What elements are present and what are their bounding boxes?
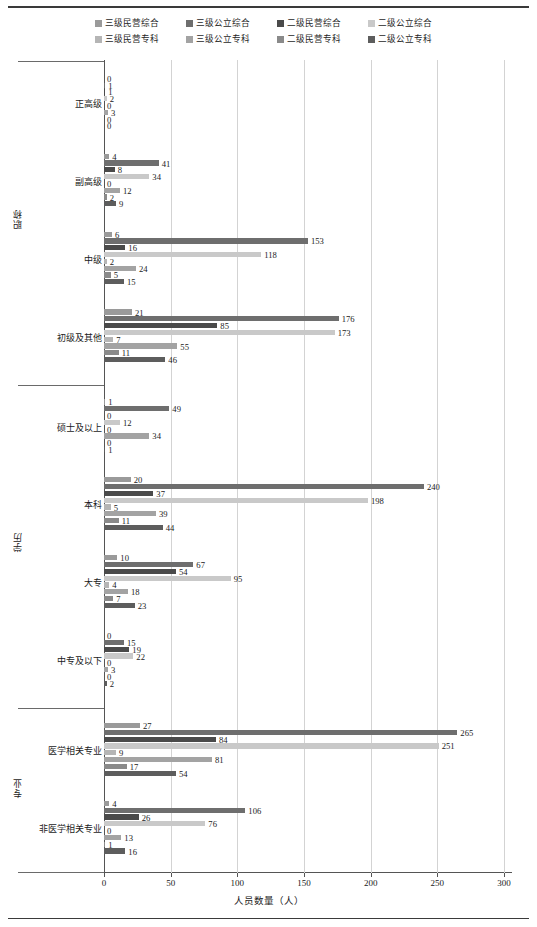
bar[interactable] [104,723,140,728]
bar[interactable] [104,259,107,264]
bar[interactable] [104,232,112,237]
bar[interactable] [104,154,109,159]
x-axis-tick-label: 150 [297,878,311,888]
bar[interactable] [104,640,124,645]
bar[interactable] [104,343,177,348]
group-separator [18,61,104,62]
bar[interactable] [104,757,212,762]
bar[interactable] [104,603,135,608]
bar[interactable] [104,194,107,199]
bar[interactable] [104,484,424,489]
legend-item-label: 三级民营专科 [105,32,159,46]
bar[interactable] [104,160,159,165]
bar[interactable] [104,447,105,452]
bar[interactable] [104,330,335,335]
x-axis-tick-label: 0 [102,878,107,888]
legend-swatch-icon [186,36,193,43]
x-axis-tick [171,873,172,877]
legend-swatch-icon [368,20,375,27]
bar[interactable] [104,555,117,560]
bar-value-label: 15 [127,278,136,287]
bar[interactable] [104,491,153,496]
x-axis-tick-label: 50 [166,878,175,888]
bar[interactable] [104,511,156,516]
bar[interactable] [104,266,136,271]
x-axis-tick-label: 200 [364,878,378,888]
bar-value-label: 198 [371,496,384,505]
x-axis-title: 人员数量（人） [0,893,537,907]
bar[interactable] [104,399,105,404]
bar[interactable] [104,167,115,172]
bar-value-label: 240 [427,483,440,492]
bar[interactable] [104,518,119,523]
legend-item[interactable]: 二级公立综合 [368,16,455,30]
bar[interactable] [104,750,116,755]
bar[interactable] [104,801,109,806]
bar[interactable] [104,771,176,776]
bar[interactable] [104,737,216,742]
bar[interactable] [104,681,107,686]
bar[interactable] [104,498,368,503]
category-label: 副高级 [30,174,102,187]
x-axis-tick [237,873,238,877]
bar-value-label: 12 [123,419,132,428]
bar[interactable] [104,279,124,284]
bar[interactable] [104,357,165,362]
bar[interactable] [104,569,176,574]
bar[interactable] [104,848,125,853]
legend-item[interactable]: 二级民营专科 [277,32,364,46]
bar-value-label: 41 [162,159,171,168]
category-label: 正高级 [30,96,102,109]
bar[interactable] [104,477,131,482]
bar-value-label: 54 [179,769,188,778]
bar[interactable] [104,808,245,813]
bar[interactable] [104,576,231,581]
bar[interactable] [104,245,125,250]
bar[interactable] [104,272,111,277]
bar[interactable] [104,323,217,328]
bar[interactable] [104,252,261,257]
bar[interactable] [104,525,163,530]
legend-item[interactable]: 三级民营专科 [95,32,182,46]
bottom-divider [8,918,529,919]
bar[interactable] [104,764,127,769]
bar[interactable] [104,350,119,355]
bar[interactable] [104,842,105,847]
category-label: 大专 [30,576,102,589]
gridline [171,60,172,873]
gridline [437,60,438,873]
legend-item[interactable]: 三级民营综合 [95,16,182,30]
legend-item[interactable]: 三级公立综合 [186,16,273,30]
bar-value-label: 251 [442,742,455,751]
x-axis-tick [304,873,305,877]
bar[interactable] [104,730,457,735]
legend-item-label: 三级民营综合 [105,16,159,30]
bar[interactable] [104,89,105,94]
bar[interactable] [104,835,121,840]
bar[interactable] [104,647,129,652]
bar-value-label: 118 [264,251,277,260]
bar[interactable] [104,582,109,587]
axis-group-label: 学历 [10,532,23,552]
legend-item[interactable]: 二级公立专科 [368,32,455,46]
bar-value-label: 265 [460,729,473,738]
legend-item[interactable]: 三级公立专科 [186,32,273,46]
bar[interactable] [104,596,113,601]
x-axis-tick [371,873,372,877]
category-label: 医学相关专业 [30,744,102,757]
bar[interactable] [104,406,169,411]
bar[interactable] [104,83,105,88]
legend-item[interactable]: 二级民营综合 [277,16,364,30]
bar-value-label: 2 [110,679,114,688]
bar[interactable] [104,337,113,342]
bar-value-label: 49 [172,405,181,414]
bar[interactable] [104,309,132,314]
bar-value-label: 76 [208,820,217,829]
legend-item-label: 三级公立专科 [196,32,250,46]
bar[interactable] [104,201,116,206]
bar[interactable] [104,814,139,819]
bar[interactable] [104,504,111,509]
bar[interactable] [104,821,205,826]
category-label: 中专及以下 [30,654,102,667]
bar[interactable] [104,743,439,748]
